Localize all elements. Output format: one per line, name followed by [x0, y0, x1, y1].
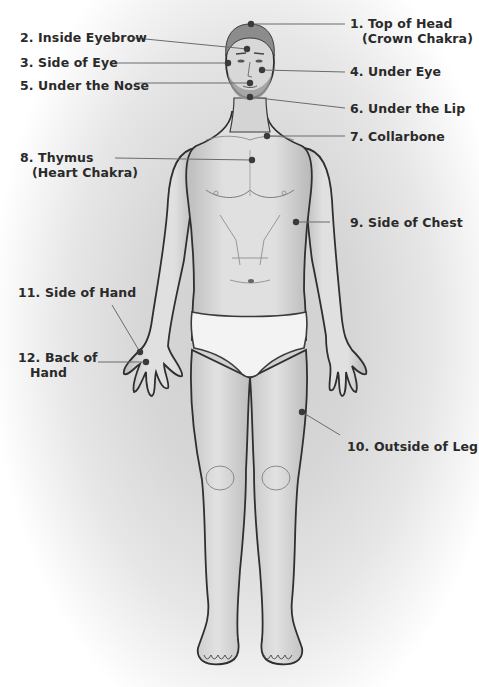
- label-subtext: (Crown Chakra): [350, 31, 473, 46]
- label-under-the-nose: 5. Under the Nose: [20, 78, 149, 93]
- under-eye-point-dot: [259, 67, 265, 73]
- label-top-of-head: 1. Top of Head (Crown Chakra): [350, 16, 473, 46]
- label-text: 5. Under the Nose: [20, 78, 149, 93]
- collarbone-point-dot: [264, 133, 270, 139]
- label-back-of-hand: 12. Back of Hand: [18, 350, 98, 380]
- under-the-nose-point-dot: [247, 80, 253, 86]
- label-subtext: (Heart Chakra): [20, 165, 138, 180]
- label-thymus: 8. Thymus (Heart Chakra): [20, 150, 138, 180]
- label-side-of-hand: 11. Side of Hand: [18, 285, 136, 300]
- label-text: 12. Back of: [18, 350, 98, 365]
- side-of-chest-point-dot: [293, 219, 299, 225]
- left-arm: [124, 148, 196, 396]
- label-under-eye: 4. Under Eye: [350, 64, 441, 79]
- side-of-eye-point-dot: [225, 60, 231, 66]
- label-subtext: Hand: [18, 365, 98, 380]
- label-text: 9. Side of Chest: [350, 215, 463, 230]
- left-leg: [191, 350, 250, 664]
- right-leg: [250, 350, 307, 664]
- label-text: 6. Under the Lip: [350, 101, 465, 116]
- label-under-the-lip: 6. Under the Lip: [350, 101, 465, 116]
- thymus-point-dot: [249, 157, 255, 163]
- outside-of-leg-leader-line: [302, 412, 340, 435]
- under-the-lip-point-dot: [247, 94, 253, 100]
- torso: [186, 112, 312, 340]
- label-text: 2. Inside Eyebrow: [20, 30, 147, 45]
- inside-eyebrow-point-dot: [244, 46, 250, 52]
- right-arm: [304, 148, 366, 396]
- label-side-of-chest: 9. Side of Chest: [350, 215, 463, 230]
- top-of-head-point-dot: [248, 21, 254, 27]
- label-text: 4. Under Eye: [350, 64, 441, 79]
- label-collarbone: 7. Collarbone: [350, 129, 445, 144]
- neck: [230, 98, 270, 132]
- label-side-of-eye: 3. Side of Eye: [20, 55, 118, 70]
- label-text: 8. Thymus: [20, 150, 94, 165]
- under-eye-leader-line: [262, 70, 345, 72]
- side-of-hand-point-dot: [137, 349, 143, 355]
- side-of-hand-leader-line: [112, 305, 140, 352]
- label-text: 7. Collarbone: [350, 129, 445, 144]
- label-inside-eyebrow: 2. Inside Eyebrow: [20, 30, 147, 45]
- back-of-hand-point-dot: [143, 359, 149, 365]
- label-text: 10. Outside of Leg: [347, 439, 478, 454]
- label-text: 1. Top of Head: [350, 16, 453, 31]
- label-outside-of-leg: 10. Outside of Leg: [347, 439, 478, 454]
- label-text: 11. Side of Hand: [18, 285, 136, 300]
- outside-of-leg-point-dot: [299, 409, 305, 415]
- label-text: 3. Side of Eye: [20, 55, 118, 70]
